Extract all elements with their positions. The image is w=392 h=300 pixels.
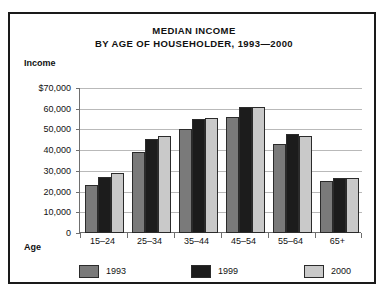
y-tick-label: $70,000: [38, 83, 71, 93]
bar-group: [85, 88, 124, 233]
bar-group: [320, 88, 359, 233]
bar-group: [226, 88, 265, 233]
x-tick-label-2534: 25–34: [127, 236, 173, 246]
x-axis-tick-labels: 15–2425–3435–4445–5455–6465+: [79, 236, 361, 252]
y-tick-label: 30,000: [43, 166, 71, 176]
y-axis-title: Income: [24, 58, 56, 68]
bar-2534-1999[interactable]: [145, 139, 158, 233]
bar-1524-2000[interactable]: [111, 173, 124, 233]
bar-5564-1999[interactable]: [286, 134, 299, 233]
y-tick-label: 10,000: [43, 207, 71, 217]
bar-group: [179, 88, 218, 233]
bar-3544-1993[interactable]: [179, 129, 192, 233]
x-tick-label-1524: 15–24: [80, 236, 126, 246]
x-tick-label-5564: 55–64: [268, 236, 314, 246]
legend-label-1993: 1993: [106, 266, 126, 276]
chart-card: MEDIAN INCOME BY AGE OF HOUSEHOLDER, 199…: [8, 12, 376, 284]
y-tick-label: 50,000: [43, 124, 71, 134]
bar-2534-2000[interactable]: [158, 136, 171, 233]
chart-legend: 199319992000: [79, 264, 369, 284]
bar-65+-2000[interactable]: [346, 178, 359, 233]
x-axis-title: Age: [24, 242, 41, 252]
x-tick-label-65+: 65+: [315, 236, 361, 246]
chart-title-line-2: BY AGE OF HOUSEHOLDER, 1993—2000: [10, 37, 378, 50]
bar-5564-1993[interactable]: [273, 144, 286, 233]
bar-2534-1993[interactable]: [132, 152, 145, 233]
legend-swatch-1993: [79, 265, 99, 278]
x-tick-mark: [361, 233, 362, 238]
y-tick-label: 20,000: [43, 187, 71, 197]
bar-65+-1999[interactable]: [333, 178, 346, 233]
x-tick-label-3544: 35–44: [174, 236, 220, 246]
bar-1524-1993[interactable]: [85, 185, 98, 233]
plot-area: [79, 88, 361, 233]
bar-group: [273, 88, 312, 233]
bar-65+-1993[interactable]: [320, 181, 333, 233]
bar-1524-1999[interactable]: [98, 177, 111, 233]
bar-4554-1999[interactable]: [239, 107, 252, 233]
bar-4554-2000[interactable]: [252, 107, 265, 233]
y-tick-label: 60,000: [43, 104, 71, 114]
bar-3544-1999[interactable]: [192, 119, 205, 233]
chart-title-line-1: MEDIAN INCOME: [10, 24, 378, 37]
bar-5564-2000[interactable]: [299, 136, 312, 233]
y-axis-tick-labels: $70,00060,00050,00040,00030,00020,00010,…: [10, 80, 76, 240]
y-tick-label: 0: [66, 228, 71, 238]
bar-3544-2000[interactable]: [205, 118, 218, 233]
chart-title: MEDIAN INCOME BY AGE OF HOUSEHOLDER, 199…: [10, 24, 378, 50]
bar-group: [132, 88, 171, 233]
bar-4554-1993[interactable]: [226, 117, 239, 233]
legend-swatch-2000: [304, 265, 324, 278]
bars-layer: [80, 88, 362, 233]
x-tick-label-4554: 45–54: [221, 236, 267, 246]
legend-label-1999: 1999: [218, 266, 238, 276]
y-tick-label: 40,000: [43, 145, 71, 155]
legend-swatch-1999: [191, 265, 211, 278]
legend-label-2000: 2000: [331, 266, 351, 276]
